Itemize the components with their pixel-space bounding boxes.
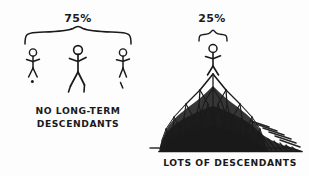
figure-left-small (27, 49, 40, 83)
left-brace (25, 27, 131, 44)
figure-left-right (117, 49, 130, 88)
right-brace (199, 30, 227, 41)
right-group: 25% (150, 12, 302, 168)
figure-left-center (69, 46, 87, 92)
comic-panel: 75% (0, 0, 309, 176)
comic-canvas: 75% (0, 0, 309, 176)
right-caption-line-1: LOTS OF DESCENDANTS (163, 157, 297, 168)
descendant-tree (150, 73, 302, 151)
left-caption-line-2: DESCENDANTS (37, 118, 120, 129)
right-percent-label: 25% (198, 12, 226, 25)
left-percent-label: 75% (64, 12, 92, 25)
figure-right-ancestor (206, 45, 221, 76)
left-caption-line-1: NO LONG-TERM (35, 105, 120, 116)
left-group: 75% (25, 12, 131, 129)
